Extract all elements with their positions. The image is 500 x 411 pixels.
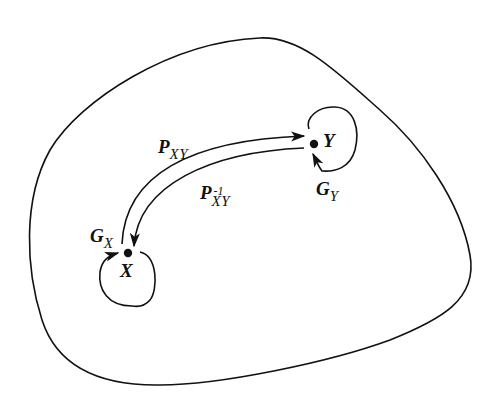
label-g-y: GY — [316, 179, 339, 198]
point-x — [124, 249, 132, 257]
label-y: Y — [323, 131, 335, 150]
label-p-xy-inverse-main: P — [200, 182, 212, 203]
label-p-xy-inverse-sub: XY — [212, 194, 231, 209]
label-p-xy-inverse: P -1 XY — [200, 183, 234, 202]
loop-g-x-right — [132, 252, 155, 306]
label-p-xy-main: P — [158, 136, 170, 157]
label-x: X — [120, 261, 133, 280]
label-g-x-sub: X — [104, 235, 114, 251]
label-g-x-main: G — [90, 225, 104, 246]
region-boundary — [29, 38, 471, 385]
point-y — [310, 140, 318, 148]
label-g-x: GX — [90, 226, 113, 245]
diagram-canvas — [0, 0, 500, 411]
label-p-xy-sub: XY — [170, 146, 189, 162]
label-g-y-main: G — [316, 178, 330, 199]
label-g-y-sub: Y — [330, 188, 339, 204]
label-p-xy: PXY — [158, 137, 188, 156]
